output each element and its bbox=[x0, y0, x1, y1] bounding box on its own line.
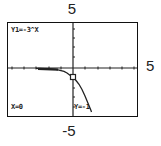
equation-label: Y1=-3^X bbox=[11, 26, 38, 34]
trace-cursor bbox=[71, 75, 76, 80]
calculator-graph-screen: Y1=-3^X X=0 Y=-1 bbox=[7, 22, 138, 117]
trace-y-value: Y=-1 bbox=[74, 103, 90, 111]
ymax-label: 5 bbox=[60, 0, 84, 17]
graph-plot bbox=[8, 23, 137, 116]
ymin-label: -5 bbox=[57, 122, 81, 139]
trace-x-value: X=0 bbox=[11, 103, 23, 111]
curve-tail bbox=[38, 69, 58, 70]
xmax-label: 5 bbox=[146, 57, 154, 74]
